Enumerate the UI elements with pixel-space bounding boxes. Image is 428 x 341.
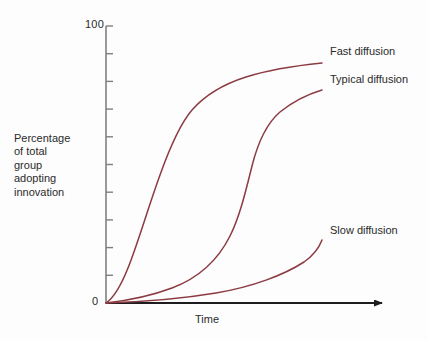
curve-label-fast-diffusion: Fast diffusion: [330, 45, 395, 57]
curve-label-typical-diffusion: Typical diffusion: [330, 73, 408, 85]
curve-typical-diffusion: [106, 90, 322, 303]
curve-slow-diffusion: [106, 240, 322, 303]
y-axis-title-line-4: adopting: [14, 172, 100, 185]
x-axis-title: Time: [195, 313, 219, 325]
y-axis-max-label: 100: [72, 18, 104, 30]
y-axis-title-line-1: Percentage: [14, 132, 100, 145]
curve-label-slow-diffusion: Slow diffusion: [330, 224, 398, 236]
y-axis-min-label: 0: [80, 295, 98, 307]
diffusion-curves-figure: 100 0 Percentage of total group adopting…: [0, 0, 428, 341]
y-axis-title-line-2: of total: [14, 145, 100, 158]
y-axis-title: Percentage of total group adopting innov…: [14, 132, 100, 199]
y-axis-ticks: [106, 26, 113, 275]
y-axis-title-line-5: innovation: [14, 186, 100, 199]
curve-fast-diffusion: [106, 63, 322, 303]
y-axis-title-line-3: group: [14, 159, 100, 172]
